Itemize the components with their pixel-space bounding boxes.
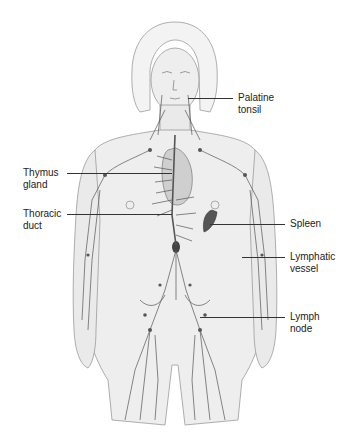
label-line1: Lymphatic xyxy=(290,251,335,263)
lymph-node-leader xyxy=(200,317,285,318)
label-line1: Spleen xyxy=(290,218,321,230)
palatine-tonsil-leader xyxy=(188,98,233,99)
label-lymphatic-vessel: Lymphatic vessel xyxy=(290,251,335,275)
thoracic-duct-leader xyxy=(67,214,172,215)
spleen-leader xyxy=(210,224,285,225)
label-line2: gland xyxy=(23,179,59,191)
label-line2: duct xyxy=(23,220,61,232)
label-line2: vessel xyxy=(290,263,335,275)
lymphatic-vessel-leader xyxy=(242,257,285,258)
label-lymph-node: Lymph node xyxy=(290,311,320,335)
label-line1: Palatine xyxy=(238,92,274,104)
label-line1: Lymph xyxy=(290,311,320,323)
label-line1: Thymus xyxy=(23,167,59,179)
label-palatine-tonsil: Palatine tonsil xyxy=(238,92,274,116)
label-spleen: Spleen xyxy=(290,218,321,230)
label-line1: Thoracic xyxy=(23,208,61,220)
label-thymus-gland: Thymus gland xyxy=(23,167,59,191)
label-thoracic-duct: Thoracic duct xyxy=(23,208,61,232)
thymus-gland-leader xyxy=(67,173,172,174)
label-line2: tonsil xyxy=(238,104,274,116)
label-line2: node xyxy=(290,323,320,335)
